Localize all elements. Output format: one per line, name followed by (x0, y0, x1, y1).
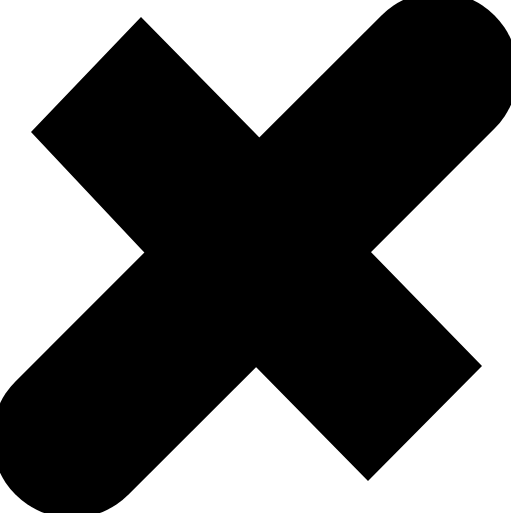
close-icon[interactable] (0, 0, 511, 513)
icon-canvas (0, 0, 511, 513)
